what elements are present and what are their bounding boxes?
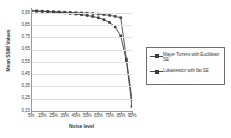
legend-label: Lukasiewicz with flat SE [163,68,221,73]
legend-marker-icon [150,68,163,75]
chart-legend: Mayer Torrens with Euclidean SE Lukasiew… [146,47,225,85]
grid-line [31,13,132,14]
plot-area [31,8,132,111]
series-marker [119,16,122,19]
series-marker [103,18,106,21]
legend-marker-icon [150,53,163,60]
grid-line [31,25,132,26]
x-axis-tick [53,111,54,114]
x-axis-tick [87,111,88,114]
series-marker [114,15,117,18]
x-axis-line [31,111,132,112]
x-axis-tick [42,111,43,114]
series-marker [86,14,89,17]
x-axis-tick [65,111,66,114]
grid-line [31,37,132,38]
x-axis-tick [98,111,99,114]
x-axis-tick [132,111,133,114]
series-marker [108,14,111,17]
x-axis-tick [121,111,122,114]
series-marker [91,15,94,18]
x-axis-title: Noise level [31,124,132,129]
y-axis-tick-label: 0,25 [4,96,30,101]
chart-container: 0,950,850,750,650,550,450,350,250,15 Mea… [0,0,231,138]
x-axis-tick-labels: 5%15%25%35%45%55%65%75%85%95% [31,113,132,121]
legend-item-mayer-torrens: Mayer Torrens with Euclidean SE [150,52,221,63]
y-axis-line [31,8,32,112]
x-axis-tick [31,111,32,114]
y-axis-tick-label: 0,35 [4,84,30,89]
series-layer [31,8,132,111]
grid-line [31,86,132,87]
grid-line [31,99,132,100]
x-axis-tick [76,111,77,114]
y-axis-tick-label: 0,95 [4,11,30,16]
y-axis-tick-label: 0,15 [4,109,30,114]
grid-line [31,74,132,75]
series-marker [131,105,132,108]
grid-line [31,62,132,63]
legend-label: Mayer Torrens with Euclidean SE [163,52,221,63]
series-marker [97,17,100,20]
x-axis-tick [110,111,111,114]
series-marker [108,21,111,24]
y-axis-title: Mean SSIM Values [6,21,11,81]
grid-line [31,50,132,51]
legend-item-lukasiewicz: Lukasiewicz with flat SE [150,68,221,76]
